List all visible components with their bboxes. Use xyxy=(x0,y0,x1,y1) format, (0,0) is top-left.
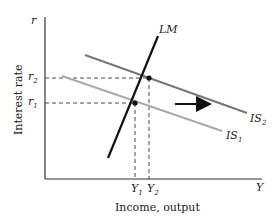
lm-curve xyxy=(108,36,158,158)
y1-tick-label: Y1 xyxy=(131,182,143,197)
y-axis-title: Interest rate xyxy=(12,65,25,135)
is2-curve xyxy=(85,55,247,113)
is-lm-chart: LM IS2 IS1 r Y r2 r1 Y1 Y2 Income, outpu… xyxy=(0,0,276,221)
r2-tick-label: r2 xyxy=(28,70,38,85)
r1-tick-label: r1 xyxy=(28,95,38,110)
equilibrium-point-2 xyxy=(146,75,151,80)
lm-label: LM xyxy=(158,23,178,36)
r-axis-label: r xyxy=(31,14,37,27)
is1-label: IS1 xyxy=(225,129,242,144)
equilibrium-point-1 xyxy=(132,100,137,105)
x-axis-title: Income, output xyxy=(115,201,200,214)
y-axis-label: Y xyxy=(256,181,265,194)
y2-tick-label: Y2 xyxy=(147,182,159,197)
is2-label: IS2 xyxy=(249,112,267,127)
